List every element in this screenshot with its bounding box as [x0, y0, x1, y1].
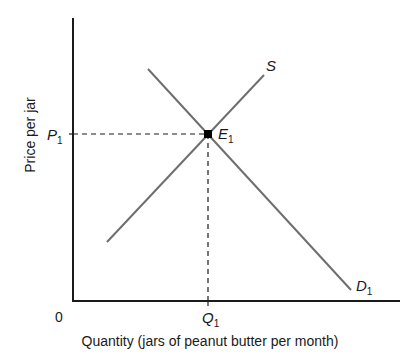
- equilibrium-point: [204, 130, 212, 138]
- demand-curve: [148, 69, 351, 290]
- y-axis-title: Price per jar: [22, 97, 38, 172]
- demand-label: D1: [356, 278, 372, 297]
- origin-label: 0: [55, 310, 63, 324]
- p1-label: P1: [47, 127, 63, 146]
- q1-label: Q1: [202, 310, 219, 329]
- chart-canvas: [0, 0, 417, 355]
- supply-label: S: [266, 58, 276, 73]
- supply-curve: [107, 75, 264, 242]
- x-axis-title: Quantity (jars of peanut butter per mont…: [60, 333, 360, 349]
- equilibrium-label: E1: [218, 126, 234, 145]
